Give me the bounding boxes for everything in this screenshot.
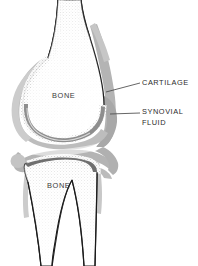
label-bone-femur: BONE	[52, 91, 75, 100]
label-cartilage: CARTILAGE	[142, 78, 189, 89]
label-synovial-fluid: SYNOVIAL FLUID	[142, 107, 183, 128]
synovial-capsule-medial-knob	[11, 154, 26, 168]
knee-joint-diagram: CARTILAGE SYNOVIAL FLUID BONE BONE	[0, 0, 198, 266]
knee-joint-illustration	[0, 0, 198, 266]
label-bone-tibia: BONE	[47, 181, 70, 190]
